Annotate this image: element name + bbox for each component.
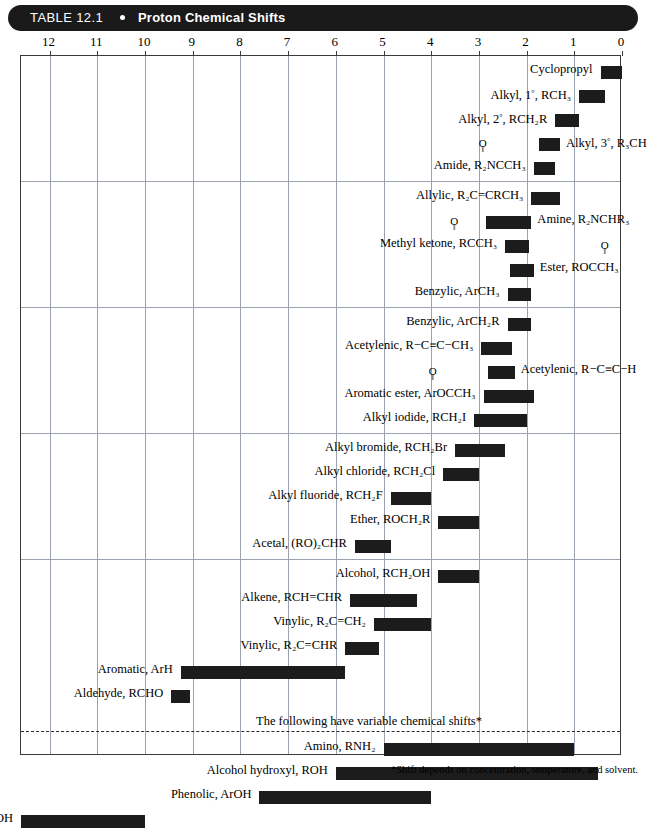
axis-tickmark-0: [622, 51, 623, 56]
carbonyl-group-icon: O‖: [447, 217, 461, 231]
row-label: Aromatic, ArH: [98, 662, 173, 677]
chart-row: Alkyl, 1°, RCH₃: [21, 84, 620, 108]
row-label: Alkyl chloride, RCH₂Cl: [314, 464, 435, 479]
row-label: Phenolic, ArOH: [171, 787, 252, 802]
axis-tick-2: 2: [522, 34, 529, 50]
row-label: Alcohol, RCH₂OH: [336, 566, 431, 581]
group-separator: [21, 181, 620, 182]
shift-range-bar: [508, 318, 532, 331]
table-number: TABLE 12.1: [30, 10, 103, 25]
shift-range-bar: [181, 666, 346, 679]
carbonyl-group-icon: O‖: [426, 367, 440, 381]
row-label: Alkyl, 2°, RCH₂R: [458, 110, 547, 127]
axis-tick-6: 6: [332, 34, 339, 50]
shift-range-bar: [555, 114, 579, 127]
shift-range-bar: [474, 414, 526, 427]
axis-tick-8: 8: [236, 34, 243, 50]
axis-tick-11: 11: [90, 34, 103, 50]
row-label: Benzylic, ArCH₃: [415, 284, 500, 299]
group-separator: [21, 559, 620, 560]
variable-shift-note: The following have variable chemical shi…: [256, 714, 482, 729]
chart-row: Aromatic ester, ArOCCH₃O‖: [21, 384, 620, 408]
row-label: Amine, R₂NCHR₃: [537, 212, 629, 227]
axis-tick-10: 10: [138, 34, 151, 50]
chart-row: Alkyl, 2°, RCH₂R: [21, 108, 620, 132]
chart-row: Methyl ketone, RCCH₃O‖: [21, 234, 620, 258]
shift-range-bar: [391, 492, 432, 505]
shift-range-bar: [510, 264, 534, 277]
chart-row: Allylic, R₂C=CRCH₃: [21, 186, 620, 210]
axis-tick-5: 5: [379, 34, 386, 50]
row-label: Ester, ROCCH₃: [540, 260, 619, 275]
footnote: *Shift depends on concentration, tempera…: [0, 764, 638, 775]
row-label: Vinylic, R₂C=CH₂: [273, 614, 366, 629]
chart-row: Alkyl bromide, RCH₂Br: [21, 438, 620, 462]
chart-row: Carboxylic, RCOOH: [21, 809, 620, 832]
row-label: Ether, ROCH₂R: [350, 512, 430, 527]
shift-range-bar: [171, 690, 190, 703]
chart-row: Acetylenic, R−C≡C−H: [21, 360, 620, 384]
row-label: Alkyl, 3°, R₃CH: [566, 134, 647, 151]
chart-row: Acetylenic, R−C≡C−CH₃: [21, 336, 620, 360]
shift-range-bar: [438, 570, 479, 583]
shift-range-bar: [355, 540, 391, 553]
axis-tick-3: 3: [475, 34, 482, 50]
row-label: Alkyl fluoride, RCH₂F: [268, 488, 382, 503]
chart-row: Phenolic, ArOH: [21, 785, 620, 809]
shift-range-bar: [539, 138, 560, 151]
row-label: Vinylic, R₂C=CHR: [241, 638, 338, 653]
shift-range-bar: [488, 366, 514, 379]
chart-row: Alkene, RCH=CHR: [21, 588, 620, 612]
shift-range-bar: [534, 162, 555, 175]
carbonyl-group-icon: O‖: [476, 139, 490, 153]
chart-row: Amino, RNH₂: [21, 737, 620, 761]
x-axis-tick-labels: 1211109876543210: [0, 34, 646, 50]
axis-tick-7: 7: [284, 34, 291, 50]
shift-range-bar: [486, 216, 531, 229]
chart-row: Alkyl, 3°, R₃CH: [21, 132, 620, 156]
row-label: Alkyl iodide, RCH₂I: [363, 410, 466, 425]
axis-tick-0: 0: [618, 34, 625, 50]
chart-row: Benzylic, ArCH₂R: [21, 312, 620, 336]
shift-range-bar: [481, 342, 512, 355]
axis-tick-9: 9: [188, 34, 195, 50]
shift-range-bar: [443, 468, 479, 481]
shift-range-bar: [345, 642, 378, 655]
row-label: Carboxylic, RCOOH: [0, 811, 13, 826]
chart-row: Aldehyde, RCHO: [21, 684, 620, 708]
row-label: Amide, R₂NCCH₃: [434, 158, 526, 173]
shift-range-bar: [384, 743, 575, 756]
shift-range-bar: [374, 618, 431, 631]
shift-range-bar: [455, 444, 505, 457]
table-header-banner: TABLE 12.1 Proton Chemical Shifts: [8, 5, 638, 31]
chart-row: Alkyl chloride, RCH₂Cl: [21, 462, 620, 486]
shift-range-bar: [508, 288, 532, 301]
bullet-separator-icon: [120, 15, 125, 20]
chart-row: Ester, ROCCH₃O‖: [21, 258, 620, 282]
shift-range-bar: [350, 594, 417, 607]
group-separator: [21, 433, 620, 434]
row-label: Amino, RNH₂: [304, 739, 376, 754]
axis-tick-1: 1: [570, 34, 577, 50]
chart-row: Vinylic, R₂C=CHR: [21, 636, 620, 660]
shift-range-bar: [259, 791, 431, 804]
shift-range-bar: [484, 390, 534, 403]
row-label: Cyclopropyl: [530, 62, 593, 77]
group-separator: [21, 307, 620, 308]
row-label: Methyl ketone, RCCH₃: [380, 236, 497, 251]
row-label: Benzylic, ArCH₂R: [406, 314, 499, 329]
row-label: Alkene, RCH=CHR: [241, 590, 342, 605]
chart-row: Cyclopropyl: [21, 60, 620, 84]
row-label: Aromatic ester, ArOCCH₃: [344, 386, 475, 401]
chart-row: Alkyl iodide, RCH₂I: [21, 408, 620, 432]
chart-row: Alkyl fluoride, RCH₂F: [21, 486, 620, 510]
chart-row: Ether, ROCH₂R: [21, 510, 620, 534]
chart-row: Amide, R₂NCCH₃O‖: [21, 156, 620, 180]
row-label: Alkyl, 1°, RCH₃: [490, 86, 571, 103]
chart-row: Acetal, (RO)₂CHR: [21, 534, 620, 558]
row-label: Aldehyde, RCHO: [74, 686, 164, 701]
chart-row: Benzylic, ArCH₃: [21, 282, 620, 306]
variable-shift-divider: [21, 731, 620, 732]
shift-range-bar: [531, 192, 560, 205]
chart-row: Alcohol, RCH₂OH: [21, 564, 620, 588]
